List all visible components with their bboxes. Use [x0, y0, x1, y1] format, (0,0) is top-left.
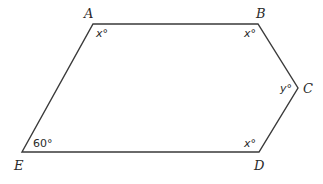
angle-label-d: x°: [243, 137, 256, 150]
angle-label-e: 60°: [33, 137, 53, 150]
vertex-label-c: C: [303, 81, 313, 96]
angle-label-b: x°: [243, 27, 256, 40]
pentagon-diagram: A B C D E x° x° y° x° 60°: [0, 0, 323, 184]
vertex-label-d: D: [253, 158, 265, 173]
vertex-label-b: B: [255, 6, 266, 21]
angle-label-c: y°: [279, 82, 292, 95]
vertex-label-a: A: [83, 6, 93, 21]
vertex-label-e: E: [13, 158, 24, 173]
angle-label-a: x°: [95, 27, 108, 40]
pentagon-outline: [22, 24, 298, 152]
